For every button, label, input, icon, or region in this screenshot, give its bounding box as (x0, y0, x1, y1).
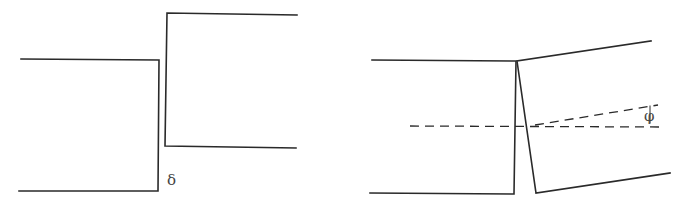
delta-label: δ (167, 171, 176, 189)
shear-figure: δ (19, 13, 297, 191)
diagram-canvas: δ φ (0, 0, 688, 206)
phi-label: φ (644, 107, 655, 125)
left-block-outline (370, 60, 516, 194)
rotated-axis-dashed (535, 105, 658, 125)
left-block-outline (19, 59, 159, 191)
rotation-figure: φ (370, 41, 670, 194)
right-block-outline (165, 13, 297, 148)
reference-axis-dashed (410, 126, 660, 127)
